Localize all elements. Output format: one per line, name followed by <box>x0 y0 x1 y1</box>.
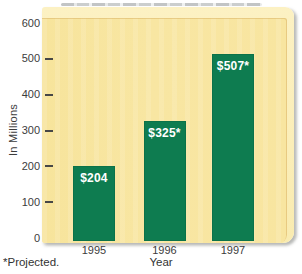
y-tick-label: 500 <box>8 52 40 65</box>
bar-1996: $325* <box>144 121 186 241</box>
bar-value-label: $507* <box>212 54 254 73</box>
bar-1997: $507* <box>212 54 254 241</box>
y-tick-label: 600 <box>8 17 40 30</box>
y-tick-label: 300 <box>8 124 40 137</box>
bar-chart-figure: In Millions 0100200300400500600 $204$325… <box>0 0 302 274</box>
bar-value-label: $204 <box>73 166 115 185</box>
x-tick-label: 1996 <box>135 244 195 256</box>
x-axis-title: Year <box>131 256 191 268</box>
y-tick-label: 0 <box>8 232 40 245</box>
y-tick-mark <box>45 165 53 167</box>
x-tick-label: 1997 <box>203 244 263 256</box>
bar-1995: $204 <box>73 166 115 241</box>
y-tick-mark <box>45 94 53 96</box>
y-tick-mark <box>45 201 53 203</box>
y-tick-mark <box>45 58 53 60</box>
projection-footnote: *Projected. <box>3 256 59 268</box>
y-tick-label: 200 <box>8 160 40 173</box>
x-tick-label: 1995 <box>64 244 124 256</box>
y-tick-label: 400 <box>8 88 40 101</box>
bar-value-label: $325* <box>144 121 186 140</box>
panel-stack-edge-shadow <box>61 3 262 6</box>
y-tick-label: 100 <box>8 196 40 209</box>
y-tick-mark <box>45 130 53 132</box>
